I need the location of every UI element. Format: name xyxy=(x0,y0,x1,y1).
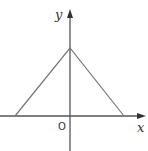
x-axis-label: x xyxy=(137,120,145,135)
coordinate-plane: y x O xyxy=(0,0,148,151)
origin-label: O xyxy=(58,121,66,132)
y-axis-label: y xyxy=(54,7,63,22)
x-axis-arrow-icon xyxy=(137,113,146,119)
y-axis-arrow-icon xyxy=(67,9,73,18)
